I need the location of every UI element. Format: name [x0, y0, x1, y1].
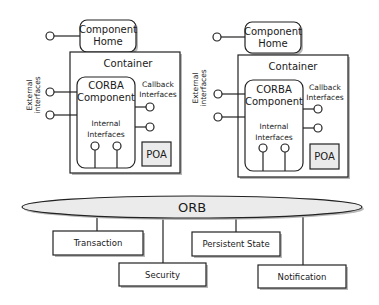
- container-group-right: Component Home Container External interf…: [191, 22, 350, 179]
- home-interface-icon: [213, 33, 221, 41]
- external-interface-icon-1: [214, 90, 222, 98]
- component-home-label-1: Component: [244, 26, 302, 37]
- internal-interfaces-label-1: Internal: [92, 119, 121, 128]
- corba-component-label-1: CORBA: [88, 80, 124, 91]
- component-home-label-1: Component: [79, 24, 137, 35]
- poa-label: POA: [146, 149, 167, 160]
- security-label: Security: [145, 270, 180, 280]
- corba-component-label-2: Component: [245, 96, 303, 107]
- external-interfaces-label-2: interfaces: [199, 69, 208, 106]
- orb-group: ORB Transaction Persistent State Securit…: [22, 196, 364, 290]
- callback-interfaces-label-2: Interfaces: [139, 90, 177, 99]
- callback-interface-icon-2: [314, 124, 322, 132]
- corba-component-label-2: Component: [77, 92, 135, 103]
- notification-label: Notification: [278, 272, 327, 282]
- internal-interfaces-label-1: Internal: [260, 122, 289, 131]
- container-label: Container: [269, 61, 319, 72]
- internal-interface-icon-2: [113, 142, 121, 150]
- callback-interfaces-label-1: Callback: [309, 83, 341, 92]
- orb-label: ORB: [178, 200, 206, 215]
- poa-label: POA: [314, 151, 335, 162]
- external-interface-icon-2: [214, 113, 222, 121]
- transaction-label: Transaction: [73, 238, 123, 248]
- callback-interface-icon-2: [146, 123, 154, 131]
- callback-interfaces-label-1: Callback: [142, 80, 174, 89]
- external-interface-icon-1: [46, 88, 54, 96]
- callback-interfaces-label-2: Interfaces: [306, 93, 344, 102]
- internal-interface-icon-2: [281, 144, 289, 152]
- internal-interface-icon-1: [91, 142, 99, 150]
- component-home-label-2: Home: [258, 38, 288, 49]
- persistent-state-label: Persistent State: [202, 239, 269, 249]
- external-interface-icon-2: [46, 111, 54, 119]
- callback-interface-icon-1: [146, 103, 154, 111]
- internal-interfaces-label-2: Interfaces: [255, 133, 293, 142]
- external-interfaces-label-2: interfaces: [33, 76, 42, 113]
- home-interface-icon: [46, 32, 54, 40]
- component-home-label-2: Home: [93, 36, 123, 47]
- internal-interfaces-label-2: Interfaces: [87, 130, 125, 139]
- container-label: Container: [104, 58, 154, 69]
- container-group-left: Component Home Container External interf…: [25, 20, 182, 175]
- callback-interface-icon-1: [314, 105, 322, 113]
- internal-interface-icon-1: [259, 144, 267, 152]
- corba-component-diagram: Component Home Container External interf…: [0, 0, 379, 305]
- corba-component-label-1: CORBA: [256, 84, 292, 95]
